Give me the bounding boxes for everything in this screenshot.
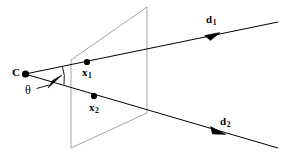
point-x2-dot bbox=[91, 93, 97, 99]
theta-leader-line bbox=[37, 85, 50, 89]
label-point-x2-subscript: 2 bbox=[95, 106, 99, 115]
camera-center-dot bbox=[22, 70, 29, 77]
label-angle-theta: θ bbox=[25, 84, 31, 96]
ray-2 bbox=[25, 74, 278, 148]
figure-canvas: C x1 x2 d1 d2 θ bbox=[0, 0, 287, 157]
label-direction-d2-subscript: 2 bbox=[226, 120, 230, 129]
label-camera-center: C bbox=[12, 67, 20, 78]
label-point-x2-base: x bbox=[89, 101, 95, 113]
label-point-x1-subscript: 1 bbox=[88, 71, 92, 80]
diagram-svg bbox=[0, 0, 287, 157]
label-point-x1-base: x bbox=[82, 66, 88, 78]
label-direction-d1: d1 bbox=[206, 14, 216, 27]
label-direction-d2: d2 bbox=[220, 116, 230, 129]
label-direction-d1-subscript: 1 bbox=[212, 18, 216, 27]
label-point-x1: x1 bbox=[82, 67, 92, 80]
point-x1-dot bbox=[84, 59, 90, 65]
ray-1-arrowhead bbox=[205, 33, 221, 41]
ray-1 bbox=[25, 22, 278, 74]
angle-arc bbox=[62, 66, 64, 84]
label-point-x2: x2 bbox=[89, 102, 99, 115]
